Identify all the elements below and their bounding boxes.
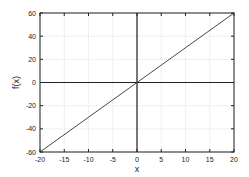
y-axis-label: f(x) <box>11 76 21 89</box>
y-tick-label: 20 <box>28 56 36 63</box>
y-tick-label: -20 <box>26 102 36 109</box>
x-tick-label: 15 <box>206 156 214 163</box>
x-tick-label: 0 <box>135 156 139 163</box>
x-tick-label: 5 <box>159 156 163 163</box>
y-tick-label: -40 <box>26 125 36 132</box>
x-tick-label: 10 <box>182 156 190 163</box>
x-tick-labels: -20-15-10-505101520 <box>35 156 238 163</box>
y-tick-labels: -60-40-200204060 <box>26 10 36 156</box>
y-tick-label: 60 <box>28 10 36 17</box>
x-tick-label: -15 <box>59 156 69 163</box>
x-tick-label: -20 <box>35 156 45 163</box>
x-tick-label: 20 <box>230 156 238 163</box>
x-tick-label: -5 <box>110 156 116 163</box>
y-tick-label: 0 <box>32 79 36 86</box>
x-axis-label: x <box>135 164 140 174</box>
y-tick-label: 40 <box>28 33 36 40</box>
y-tick-label: -60 <box>26 149 36 156</box>
x-tick-label: -10 <box>83 156 93 163</box>
line-chart: -20-15-10-505101520 -60-40-200204060 x f… <box>0 0 249 177</box>
